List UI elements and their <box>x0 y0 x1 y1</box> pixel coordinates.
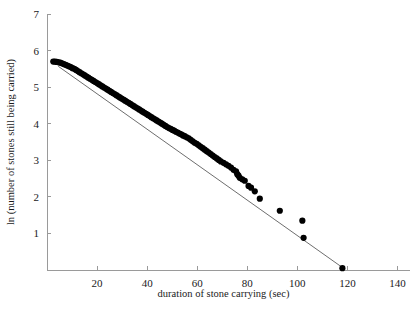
x-tick-label: 20 <box>92 277 104 289</box>
data-point <box>299 218 305 224</box>
y-axis-title: ln (number of stones still being carried… <box>5 58 17 225</box>
y-tick-label: 6 <box>34 45 40 57</box>
y-tick-label: 1 <box>34 227 40 239</box>
data-point <box>252 188 258 194</box>
y-tick-label: 7 <box>34 8 40 20</box>
y-tick-label: 3 <box>34 154 40 166</box>
chart-figure: 123456720406080100120140duration of ston… <box>0 0 420 310</box>
scatter-plot: 123456720406080100120140duration of ston… <box>0 0 420 310</box>
data-point <box>277 208 283 214</box>
y-tick-label: 5 <box>34 81 40 93</box>
data-point <box>301 235 307 241</box>
x-tick-label: 100 <box>289 277 306 289</box>
x-tick-label: 120 <box>339 277 356 289</box>
data-point <box>339 265 345 271</box>
y-tick-label: 2 <box>34 191 40 203</box>
x-tick-label: 140 <box>389 277 406 289</box>
x-tick-label: 40 <box>142 277 154 289</box>
axes <box>47 14 410 270</box>
data-point <box>257 196 263 202</box>
y-tick-label: 4 <box>34 118 40 130</box>
x-axis-title: duration of stone carrying (sec) <box>158 288 290 300</box>
data-point <box>242 178 248 184</box>
